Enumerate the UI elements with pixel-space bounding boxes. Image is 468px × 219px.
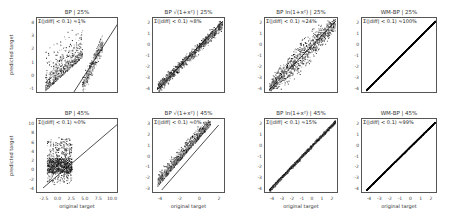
accuracy-annotation: Σ(|diff| < 0.1) ≈0% — [154, 119, 201, 125]
scatter-points — [37, 119, 118, 193]
accuracy-annotation: Σ(|diff| < 0.1) ≈8% — [154, 18, 201, 24]
y-tick-label: -4 — [24, 186, 34, 191]
plot-area: Σ(|diff| < 0.1) ≈15% — [264, 118, 338, 193]
scatter-points — [37, 18, 118, 93]
y-tick-label: -2 — [252, 64, 262, 69]
y-tick-label: 2 — [349, 121, 359, 126]
y-tick-label: 10 — [24, 121, 34, 126]
y-tick-label: -1 — [349, 53, 359, 58]
x-tick-label: 2 — [424, 196, 438, 201]
y-tick-label: 0 — [24, 73, 34, 78]
panel-title: BP | 25% — [36, 9, 118, 15]
panel-title: BP ln(1+x²) | 25% — [264, 9, 338, 15]
y-tick-label: -1 — [252, 53, 262, 58]
x-tick-label: 7.5 — [91, 196, 105, 201]
y-tick-label: 2 — [252, 121, 262, 126]
y-tick-label: 0 — [252, 143, 262, 148]
y-tick-label: -3 — [252, 175, 262, 180]
y-tick-label: 1 — [140, 31, 150, 36]
x-axis-label: original target — [36, 203, 118, 209]
x-axis-label: original target — [361, 203, 437, 209]
plot-area: Σ(|diff| < 0.1) ≈99% — [361, 118, 437, 193]
y-tick-label: -2 — [252, 164, 262, 169]
panel-title: WM-BP | 45% — [361, 110, 437, 116]
scatter-points — [265, 18, 338, 93]
panel-title: BP √(1+x²) | 25% — [152, 9, 225, 15]
y-tick-label: -1 — [140, 164, 150, 169]
y-tick-label: 2 — [252, 20, 262, 25]
panel-title: BP | 45% — [36, 110, 118, 116]
y-tick-label: -3 — [140, 186, 150, 191]
y-tick-label: 8 — [24, 130, 34, 135]
accuracy-annotation: Σ(|diff| < 0.1) ≈1% — [38, 18, 85, 24]
y-tick-label: -4 — [349, 86, 359, 91]
plot-area: Σ(|diff| < 0.1) ≈24% — [264, 17, 338, 93]
accuracy-annotation: Σ(|diff| < 0.1) ≈100% — [363, 18, 417, 24]
y-tick-label: 3 — [140, 121, 150, 126]
y-tick-label: 0 — [349, 143, 359, 148]
x-tick-label: 2.5 — [64, 196, 78, 201]
x-tick-label: -4 — [153, 196, 167, 201]
y-tick-label: 2 — [349, 20, 359, 25]
plot-area: Σ(|diff| < 0.1) ≈0% — [152, 118, 225, 193]
y-tick-label: 4 — [24, 20, 34, 25]
y-tick-label: 4 — [24, 149, 34, 154]
scatter-points — [153, 18, 225, 93]
y-tick-label: 2 — [140, 132, 150, 137]
y-axis-label: predicted target — [8, 135, 14, 176]
accuracy-annotation: Σ(|diff| < 0.1) ≈15% — [266, 119, 317, 125]
y-tick-label: 0 — [349, 42, 359, 47]
y-tick-label: 6 — [24, 140, 34, 145]
y-tick-label: -4 — [252, 86, 262, 91]
y-tick-label: -1 — [140, 53, 150, 58]
y-tick-label: -1 — [24, 86, 34, 91]
y-tick-label: -3 — [349, 175, 359, 180]
y-tick-label: 0 — [140, 42, 150, 47]
x-tick-label: 2 — [325, 196, 339, 201]
accuracy-annotation: Σ(|diff| < 0.1) ≈0% — [38, 119, 85, 125]
y-tick-label: -4 — [349, 186, 359, 191]
scatter-points — [153, 119, 225, 193]
panel-title: BP √(1+x²) | 45% — [152, 110, 225, 116]
y-tick-label: -2 — [140, 175, 150, 180]
y-tick-label: -3 — [252, 75, 262, 80]
accuracy-annotation: Σ(|diff| < 0.1) ≈24% — [266, 18, 317, 24]
x-tick-label: 2 — [212, 196, 226, 201]
y-tick-label: 0 — [140, 154, 150, 159]
scatter-points — [265, 119, 338, 193]
y-tick-label: 1 — [140, 143, 150, 148]
y-tick-label: -1 — [349, 154, 359, 159]
y-tick-label: -3 — [349, 75, 359, 80]
y-tick-label: 1 — [349, 31, 359, 36]
x-tick-label: 0 — [192, 196, 206, 201]
y-tick-label: -2 — [349, 64, 359, 69]
plot-area: Σ(|diff| < 0.1) ≈8% — [152, 17, 225, 93]
x-tick-label: 0.0 — [51, 196, 65, 201]
y-axis-label: predicted target — [8, 34, 14, 75]
y-tick-label: -1 — [252, 154, 262, 159]
y-tick-label: -4 — [252, 186, 262, 191]
y-tick-label: 1 — [349, 132, 359, 137]
y-tick-label: 2 — [140, 20, 150, 25]
y-tick-label: 1 — [24, 60, 34, 65]
x-tick-label: 5.0 — [78, 196, 92, 201]
y-tick-label: -4 — [140, 86, 150, 91]
scatter-points — [362, 119, 437, 193]
y-tick-label: 1 — [252, 132, 262, 137]
panel-title: BP ln(1+x²) | 45% — [264, 110, 338, 116]
panel-title: WM-BP | 25% — [361, 9, 437, 15]
x-tick-label: -2 — [173, 196, 187, 201]
x-axis-label: original target — [152, 203, 225, 209]
y-tick-label: 1 — [252, 31, 262, 36]
y-tick-label: -2 — [24, 177, 34, 182]
plot-area: Σ(|diff| < 0.1) ≈0% — [36, 118, 118, 193]
plot-area: Σ(|diff| < 0.1) ≈1% — [36, 17, 118, 93]
scatter-points — [362, 18, 437, 93]
accuracy-annotation: Σ(|diff| < 0.1) ≈99% — [363, 119, 414, 125]
y-tick-label: 2 — [24, 46, 34, 51]
y-tick-label: -3 — [140, 75, 150, 80]
y-tick-label: -2 — [140, 64, 150, 69]
y-tick-label: 3 — [24, 33, 34, 38]
y-tick-label: -2 — [349, 164, 359, 169]
plot-area: Σ(|diff| < 0.1) ≈100% — [361, 17, 437, 93]
